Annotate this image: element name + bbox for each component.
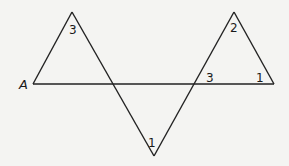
angle-3-right-label: 3 bbox=[206, 71, 214, 85]
angle-1-bottom-label: 1 bbox=[148, 136, 156, 150]
right-triangle-side bbox=[234, 12, 274, 84]
angle-2-label: 2 bbox=[230, 21, 238, 35]
angle-1-right-label: 1 bbox=[256, 71, 264, 85]
geometry-diagram: A 3 1 2 3 1 bbox=[0, 0, 289, 166]
left-triangle-side bbox=[33, 12, 72, 84]
point-a-label: A bbox=[18, 77, 28, 92]
angle-3-left-label: 3 bbox=[69, 23, 77, 37]
